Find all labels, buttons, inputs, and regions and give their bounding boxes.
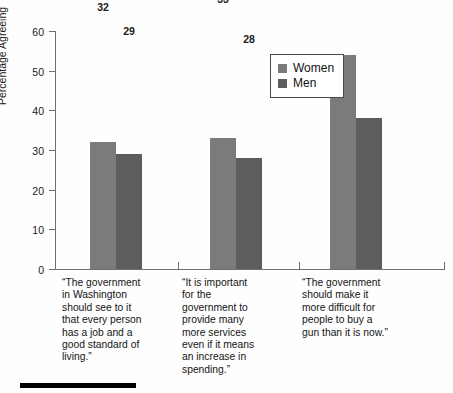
legend-item-women[interactable]: Women [278, 62, 334, 76]
legend-item-men[interactable]: Men [278, 77, 334, 91]
bar-wrap-0-men: 29 [116, 154, 142, 269]
y-tick-50: 50 [49, 71, 55, 72]
category-caption-2: “The government should make it more diff… [302, 277, 428, 339]
y-axis-title: Percentage Agreeing [0, 7, 8, 105]
legend-swatch-women-icon [278, 64, 287, 73]
category-caption-1: “It is important for the government to p… [182, 277, 290, 376]
bar-value-1-women: 33 [210, 0, 236, 5]
bar-group-0: 32 29 [90, 142, 142, 269]
legend-label-women: Women [293, 62, 334, 76]
bar-value-1-men: 28 [236, 34, 262, 45]
y-tick-10: 10 [49, 229, 55, 230]
y-tick-label-40: 40 [32, 105, 44, 116]
y-tick-label-50: 50 [32, 66, 44, 77]
y-tick-40: 40 [49, 110, 55, 111]
y-tick-0: 0 [49, 269, 55, 270]
bar-1-women[interactable] [210, 138, 236, 269]
bar-1-men[interactable] [236, 158, 262, 269]
bar-wrap-0-women: 32 [90, 142, 116, 269]
bar-chart-figure: Percentage Agreeing 60 50 40 30 20 10 0 … [0, 0, 453, 393]
bar-wrap-1-men: 28 [236, 158, 262, 269]
legend-swatch-men-icon [278, 79, 287, 88]
category-caption-0: “The government in Washington should see… [62, 277, 174, 364]
legend-label-men: Men [293, 77, 316, 91]
y-tick-20: 20 [49, 190, 55, 191]
y-tick-60: 60 [49, 31, 55, 32]
bar-value-0-women: 32 [90, 2, 116, 13]
y-tick-label-30: 30 [32, 145, 44, 156]
bar-0-men[interactable] [116, 154, 142, 269]
chart-legend[interactable]: Women Men [270, 54, 344, 98]
y-tick-label-0: 0 [38, 264, 44, 275]
y-tick-30: 30 [49, 150, 55, 151]
bar-wrap-2-men: 38 [356, 118, 382, 269]
bar-2-men[interactable] [356, 118, 382, 269]
y-tick-label-10: 10 [32, 224, 44, 235]
bar-value-0-men: 29 [116, 26, 142, 37]
bar-group-1: 33 28 [210, 138, 262, 269]
x-axis-line [55, 269, 445, 270]
bottom-rule-divider [20, 383, 136, 388]
plot-area: 32 29 33 28 54 [56, 31, 445, 269]
bar-0-women[interactable] [90, 142, 116, 269]
y-tick-label-20: 20 [32, 185, 44, 196]
bar-wrap-1-women: 33 [210, 138, 236, 269]
y-tick-label-60: 60 [32, 26, 44, 37]
